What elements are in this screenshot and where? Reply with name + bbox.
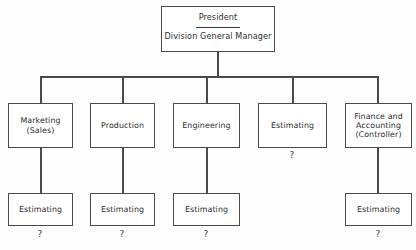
- organization-chart: President Division General Manager Marke…: [0, 0, 416, 250]
- node-production-estimating[interactable]: Estimating: [90, 193, 155, 226]
- node-president[interactable]: President Division General Manager: [161, 6, 275, 52]
- connector-drop-engineering: [206, 76, 208, 103]
- node-finance-label-line-1: Finance and: [354, 112, 403, 121]
- node-marketing-estimating[interactable]: Estimating: [8, 193, 73, 226]
- node-marketing-estimating-label: Estimating: [19, 205, 62, 214]
- node-production-label: Production: [101, 121, 144, 130]
- node-engineering[interactable]: Engineering: [173, 103, 240, 148]
- connector-drop-marketing: [40, 76, 42, 103]
- node-production[interactable]: Production: [90, 103, 155, 148]
- node-marketing-label-line-1: Marketing: [20, 116, 60, 125]
- node-president-title: President: [199, 13, 238, 23]
- question-mark-engineering-estimating: ?: [199, 229, 213, 239]
- node-engineering-estimating-label: Estimating: [185, 205, 228, 214]
- connector-marketing-to-child: [40, 148, 42, 193]
- node-finance-accounting[interactable]: Finance and Accounting (Controller): [345, 103, 412, 148]
- connector-horizontal-bus: [40, 76, 378, 78]
- question-mark-production-estimating: ?: [115, 229, 129, 239]
- connector-production-to-child: [122, 148, 124, 193]
- node-engineering-label: Engineering: [182, 121, 230, 130]
- node-production-estimating-label: Estimating: [101, 205, 144, 214]
- connector-engineering-to-child: [206, 148, 208, 193]
- node-engineering-estimating[interactable]: Estimating: [173, 193, 240, 226]
- node-estimating-department-label: Estimating: [271, 121, 314, 130]
- connector-drop-estimating: [292, 76, 294, 103]
- title-divider-rule: [196, 27, 240, 28]
- node-finance-estimating[interactable]: Estimating: [345, 193, 412, 226]
- node-president-subtitle: Division General Manager: [165, 32, 272, 42]
- node-marketing[interactable]: Marketing (Sales): [8, 103, 73, 148]
- connector-drop-production: [122, 76, 124, 103]
- node-estimating-department[interactable]: Estimating: [258, 103, 327, 148]
- question-mark-estimating-department: ?: [285, 150, 299, 160]
- connector-finance-to-child: [377, 148, 379, 193]
- node-marketing-label-line-2: (Sales): [27, 126, 55, 135]
- question-mark-finance-estimating: ?: [371, 229, 385, 239]
- connector-root-stem: [217, 52, 219, 77]
- connector-drop-finance: [377, 76, 379, 103]
- node-finance-label-line-3: (Controller): [355, 130, 401, 139]
- node-finance-label-line-2: Accounting: [356, 121, 401, 130]
- question-mark-marketing-estimating: ?: [33, 229, 47, 239]
- node-finance-estimating-label: Estimating: [357, 205, 400, 214]
